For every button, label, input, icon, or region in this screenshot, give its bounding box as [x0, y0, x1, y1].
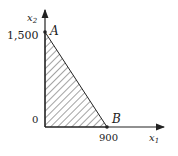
point-b-label: B — [111, 112, 121, 126]
x-axis-label: x1 — [149, 132, 159, 145]
x-tick-label: 900 — [99, 132, 118, 143]
y-tick-label: 1,500 — [7, 29, 39, 42]
point-b — [105, 125, 109, 129]
point-a — [43, 30, 47, 34]
feasible-region-diagram: x2 A 1,500 0 B 900 x1 — [0, 0, 178, 156]
origin-label: 0 — [32, 114, 38, 125]
point-a-label: A — [49, 24, 59, 38]
feasible-region — [45, 32, 107, 127]
y-axis-label: x2 — [27, 12, 38, 25]
